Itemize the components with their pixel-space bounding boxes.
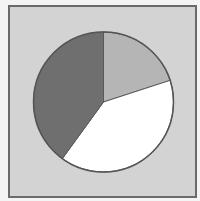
pie-chart <box>0 0 200 201</box>
